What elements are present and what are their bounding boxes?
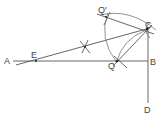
arc-inner bbox=[117, 30, 146, 61]
point-e bbox=[35, 60, 37, 62]
label-c: C bbox=[145, 20, 152, 30]
point-q bbox=[116, 60, 118, 62]
label-b: B bbox=[150, 57, 156, 67]
point-qprime bbox=[105, 16, 107, 18]
construction-diagram: A E Q Q' C B D bbox=[0, 0, 166, 122]
label-q: Q bbox=[108, 61, 115, 71]
label-d: D bbox=[144, 105, 151, 115]
label-a: A bbox=[4, 56, 10, 66]
point-bisector bbox=[84, 46, 86, 48]
label-qprime: Q' bbox=[98, 5, 107, 15]
label-e: E bbox=[31, 50, 37, 60]
